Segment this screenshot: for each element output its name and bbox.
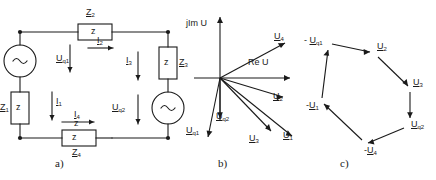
vector-uq1-head — [207, 130, 213, 137]
impedance-z2-label: Z2 — [86, 8, 95, 17]
edge-u3-to-uq2-head — [407, 112, 413, 118]
voltage-uq1-head — [67, 67, 72, 72]
node-top-right — [166, 30, 170, 34]
edge-u2-to-u3-head — [402, 79, 408, 86]
polygon-label-u3: U3 — [413, 78, 423, 87]
node-bottom-left — [18, 136, 22, 140]
node-top-left — [18, 30, 22, 34]
impedance-z4-label: Z4 — [72, 148, 81, 157]
impedance-z1-inner: z — [16, 103, 21, 112]
polygon-label-u2: U2 — [377, 42, 387, 51]
edge-uq2-to-u4-head — [368, 139, 375, 145]
voltage-uq1-label: Uq1 — [56, 54, 69, 63]
source-uq2-sine — [161, 106, 175, 111]
current-i1-head — [49, 115, 54, 120]
edge-uq2-to-u4 — [368, 128, 404, 143]
current-i3-label: I3 — [126, 56, 132, 65]
axis-imaginary-head — [217, 17, 223, 23]
vector-u2-label: U2 — [273, 92, 283, 101]
vector-uq2-label: Uq2 — [216, 112, 229, 121]
panel-circuit: Z2 z z z Z4 Z1 z z Z3 Uq1 Uq2 I1 I2 I3 I… — [0, 0, 190, 180]
edge-u4-to-u1 — [324, 104, 362, 140]
vector-uq1-label: Uq1 — [186, 126, 199, 135]
panel-polygon: - Uq1 U2 U3 Uq2 -U4 -U1 c) — [292, 0, 436, 180]
impedance-z3-inner: z — [164, 58, 169, 67]
polygon-label-uq2: Uq2 — [411, 120, 424, 129]
edge-u1-to-uq1 — [322, 50, 328, 98]
current-i1-label: I1 — [56, 97, 62, 106]
axis-real-label: Re U — [248, 57, 269, 67]
vector-u4-label: U4 — [274, 32, 284, 41]
vector-u1-line — [220, 78, 292, 136]
panel-b-caption: b) — [218, 157, 227, 169]
polygon-label-neg-u1: -U1 — [306, 101, 319, 110]
current-i3-head — [135, 75, 140, 80]
impedance-z1-label: Z1 — [0, 103, 9, 112]
current-i2-label: I2 — [97, 36, 103, 45]
edge-u2-to-u3 — [378, 57, 408, 86]
axis-real-head — [284, 75, 290, 81]
impedance-z4-box — [62, 130, 96, 146]
source-uq1-sine — [13, 59, 27, 64]
figure-root: Z2 z z z Z4 Z1 z z Z3 Uq1 Uq2 I1 I2 I3 I… — [0, 0, 436, 180]
panel-c-caption: c) — [340, 157, 349, 169]
impedance-z2-inner: z — [91, 27, 96, 36]
panel-a-caption: a) — [55, 157, 64, 169]
vector-u3-label: U3 — [249, 134, 259, 143]
impedance-z4-inner: z — [74, 119, 79, 128]
vector-uq1-line — [208, 78, 220, 137]
impedance-z4-box-inner: z — [72, 133, 77, 142]
voltage-uq2-label: Uq2 — [112, 103, 125, 112]
edge-uq1-to-u2-head — [364, 49, 370, 55]
vector-u4-head — [278, 43, 285, 48]
panel-phasor: jIm U Re U U4 U2 U3 U1 Uq1 Uq2 b) — [186, 0, 296, 180]
current-i4-label: I4 — [74, 110, 80, 119]
polygon-label-neg-uq1: - Uq1 — [304, 36, 323, 45]
current-i4-head — [89, 119, 94, 124]
axis-imaginary-label: jIm U — [186, 18, 207, 28]
voltage-uq2-head — [135, 119, 140, 124]
node-bottom-right — [166, 136, 170, 140]
polygon-label-neg-u4: -U4 — [364, 146, 377, 155]
current-i2-head — [108, 45, 113, 50]
